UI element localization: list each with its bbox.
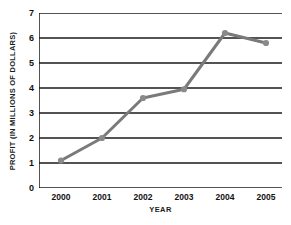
y-tick-label: 0 [18, 184, 34, 193]
x-tick-label: 2005 [246, 192, 286, 202]
y-tick-label: 6 [18, 34, 34, 43]
data-point-marker [222, 30, 228, 36]
x-tick-label: 2003 [164, 192, 204, 202]
x-axis-label: YEAR [39, 205, 282, 214]
plot-area [39, 13, 282, 188]
y-tick-label: 1 [18, 159, 34, 168]
data-series-profit [39, 13, 282, 188]
data-point-marker [140, 95, 146, 101]
x-tick-label: 2000 [41, 192, 81, 202]
data-point-marker [99, 135, 105, 141]
y-tick-label: 7 [18, 9, 34, 18]
y-tick-label: 2 [18, 134, 34, 143]
y-tick-label: 4 [18, 84, 34, 93]
x-axis-tick-labels: 200020012002200320042005 [39, 192, 282, 206]
y-axis-tick-labels: 01234567 [14, 0, 34, 225]
profit-line-chart: PROFIT (IN MILLIONS OF DOLLARS) 01234567… [0, 0, 291, 225]
series-line [61, 33, 266, 161]
y-tick-label: 3 [18, 109, 34, 118]
data-point-marker [263, 40, 269, 46]
data-point-marker [181, 86, 187, 92]
x-tick-label: 2004 [205, 192, 245, 202]
y-tick-label: 5 [18, 59, 34, 68]
data-point-marker [58, 157, 64, 163]
x-tick-label: 2001 [82, 192, 122, 202]
x-tick-label: 2002 [123, 192, 163, 202]
